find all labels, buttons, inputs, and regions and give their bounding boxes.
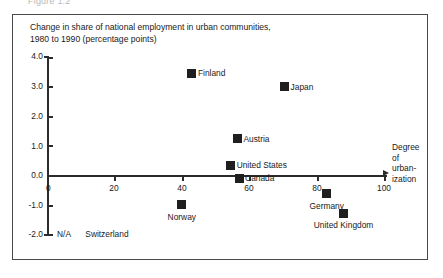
x-axis-caption-line-1: Degree xyxy=(392,142,432,153)
x-tick-20 xyxy=(114,177,116,181)
data-point-label: United Kingdom xyxy=(314,220,374,230)
x-tick-label-60: 60 xyxy=(234,183,264,193)
na-country-switzerland: Switzerland xyxy=(85,229,128,239)
y-tick-2 xyxy=(49,116,53,118)
x-tick-label-20: 20 xyxy=(99,183,129,193)
y-tick-1 xyxy=(49,145,53,147)
figure-container: Figure 1.2 Change in share of national e… xyxy=(0,0,443,278)
x-tick-label-0: 0 xyxy=(46,183,60,193)
data-point-label: United States xyxy=(237,160,287,170)
data-point-label: Japan xyxy=(291,82,314,92)
data-point-label: Finland xyxy=(198,68,225,78)
x-tick-label-40: 40 xyxy=(167,183,197,193)
chart-title-line-2: 1980 to 1990 (percentage points) xyxy=(30,34,360,46)
x-axis-caption: Degree of urban- ization xyxy=(392,142,432,184)
y-tick-label-3: 3.0 xyxy=(19,81,43,91)
data-point-marker xyxy=(187,69,196,78)
data-point-marker xyxy=(322,189,331,198)
x-tick-0 xyxy=(47,177,49,181)
y-tick-3 xyxy=(49,86,53,88)
data-point-marker xyxy=(235,174,244,183)
y-tick-neg2 xyxy=(49,234,53,236)
y-tick-label-2: 2.0 xyxy=(19,111,43,121)
x-axis-line xyxy=(47,175,387,177)
data-point-marker xyxy=(177,200,186,209)
y-tick-neg1 xyxy=(49,205,53,207)
data-point-marker xyxy=(226,161,235,170)
y-tick-label-neg1: -1.0 xyxy=(19,200,43,210)
x-axis-caption-line-4: ization xyxy=(392,174,432,185)
y-tick-label-1: 1.0 xyxy=(19,141,43,151)
data-point-label: Norway xyxy=(168,212,196,222)
y-tick-label-0: 0.0 xyxy=(19,170,43,180)
x-axis-arrow-icon xyxy=(383,170,389,176)
data-point-label: Canada xyxy=(245,173,274,183)
data-point-marker xyxy=(339,209,348,218)
x-axis-caption-line-3: urban- xyxy=(392,163,432,174)
x-tick-40 xyxy=(182,177,184,181)
x-tick-80 xyxy=(317,177,319,181)
y-tick-label-neg2: -2.0 xyxy=(19,229,43,239)
not-available-note: N/A Switzerland xyxy=(57,229,129,239)
clipped-header-text: Figure 1.2 xyxy=(28,0,408,8)
y-tick-4 xyxy=(49,57,53,59)
x-tick-100 xyxy=(384,177,386,181)
x-axis-caption-line-2: of xyxy=(392,153,432,164)
na-label: N/A xyxy=(57,229,71,239)
chart-title-line-1: Change in share of national employment i… xyxy=(30,22,271,32)
y-tick-label-4: 4.0 xyxy=(19,51,43,61)
data-point-marker xyxy=(233,134,242,143)
chart-title: Change in share of national employment i… xyxy=(30,22,360,45)
data-point-label: Austria xyxy=(243,134,269,144)
data-point-marker xyxy=(280,82,289,91)
x-tick-label-100: 100 xyxy=(369,183,399,193)
